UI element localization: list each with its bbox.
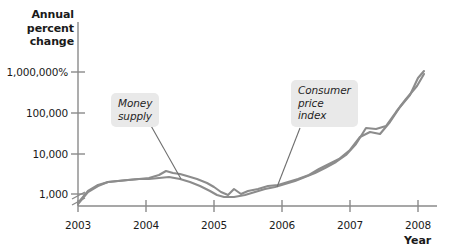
y-axis-title: Annual percent change <box>12 8 74 49</box>
series-line-money-supply <box>78 71 424 203</box>
x-tick-label-2007: 2007 <box>337 219 363 231</box>
y-tick-label-100000: 100,000 <box>26 107 68 119</box>
callout-money-supply: Money supply <box>111 93 159 127</box>
x-tick-label-2006: 2006 <box>269 219 295 231</box>
callout-consumer-price-index: Consumer price index <box>291 80 358 127</box>
x-tick-label-2005: 2005 <box>201 219 227 231</box>
x-tick-label-2004: 2004 <box>133 219 159 231</box>
y-tick-label-1000: 1,000 <box>39 188 68 200</box>
y-tick-label-1000000: 1,000,000% <box>7 66 68 78</box>
x-tick-label-2008: 2008 <box>405 219 431 231</box>
y-tick-label-10000: 10,000 <box>32 148 68 160</box>
callout-leader-consumer-price-index <box>277 128 300 187</box>
x-axis-title: Year <box>404 234 431 247</box>
x-tick-label-2003: 2003 <box>65 219 91 231</box>
chart-figure: Annual percent change 1,000,000% 100,000… <box>0 0 449 251</box>
